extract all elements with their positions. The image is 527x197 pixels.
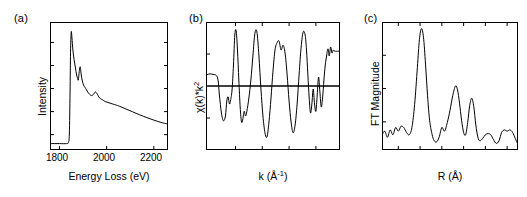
panel-a-curve bbox=[50, 22, 168, 150]
panel-b-xlabel: k (Å-1) bbox=[259, 170, 288, 182]
panel-b-curve bbox=[206, 22, 340, 150]
panel-c-label: (c) bbox=[364, 12, 377, 24]
panel-a: (a) 1800 2000 2200 Energy Loss (eV) Inte… bbox=[0, 0, 175, 197]
panel-b-ylabel: χ(k)*k2 bbox=[193, 82, 205, 113]
three-panel-figure: (a) 1800 2000 2200 Energy Loss (eV) Inte… bbox=[0, 0, 527, 197]
panel-b-ylabel-sup: 2 bbox=[192, 82, 201, 86]
panel-a-xtick-0: 1800 bbox=[46, 152, 68, 163]
panel-b-label: (b) bbox=[189, 12, 203, 24]
panel-b-xlabel-close: ) bbox=[284, 170, 288, 182]
panel-c-xlabel: R (Å) bbox=[438, 170, 463, 182]
panel-c-ylabel: FT Magnitude bbox=[369, 61, 381, 126]
panel-b: (b) k (Å-1) χ(k)*k2 bbox=[175, 0, 350, 197]
panel-b-plot bbox=[206, 22, 340, 150]
panel-a-plot bbox=[50, 22, 168, 150]
panel-a-xlabel: Energy Loss (eV) bbox=[68, 170, 149, 182]
panel-c-curve bbox=[382, 22, 518, 150]
panel-a-xtick-2: 2200 bbox=[140, 152, 162, 163]
panel-c: (c) R (Å) FT Magnitude bbox=[350, 0, 527, 197]
panel-b-ylabel-base: χ(k)*k bbox=[193, 86, 205, 113]
panel-b-xlabel-base: k (Å bbox=[259, 170, 278, 182]
panel-c-plot bbox=[382, 22, 518, 150]
panel-a-xtick-1: 2000 bbox=[93, 152, 115, 163]
panel-a-ylabel: Intensity bbox=[36, 77, 48, 116]
panel-a-label: (a) bbox=[14, 12, 28, 24]
